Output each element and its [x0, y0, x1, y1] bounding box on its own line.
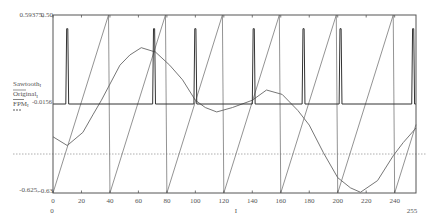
x-tick-label: 100: [190, 197, 201, 205]
x-tick-label: 240: [389, 197, 400, 205]
x-tick-labels: 020406080100120140160180200220240: [51, 197, 400, 205]
x-tick-label: 60: [135, 197, 143, 205]
fpm-trace: [53, 29, 416, 104]
x-variable-label: I: [235, 207, 238, 215]
fpm-chart: 0.59375, 0.50 -0.0156 -0.625, -0.63 Sawt…: [0, 0, 435, 217]
x-tick-label: 160: [276, 197, 287, 205]
x-tick-label: 80: [163, 197, 171, 205]
x-tick-label: 180: [304, 197, 315, 205]
plot-traces: [53, 15, 416, 193]
x-tick-label: 40: [106, 197, 114, 205]
x-tick-label: 200: [332, 197, 343, 205]
x-tick-label: 220: [361, 197, 372, 205]
y-marker-max-label: 0.50: [41, 11, 54, 19]
y-marker-min-label: -0.63: [38, 187, 53, 195]
x-tick-label: 120: [219, 197, 230, 205]
x-min-label: 0: [50, 207, 54, 215]
x-tick-label: 0: [51, 197, 55, 205]
legend-item-sawtooth: SawtoothI: [13, 80, 41, 89]
original-trace: [53, 48, 416, 193]
x-tick-label: 140: [247, 197, 258, 205]
y-marker-mid-label: -0.0156: [32, 98, 53, 105]
y-outer-min-label: -0.625,: [19, 186, 39, 194]
legend-item-original: OriginalI: [13, 90, 38, 99]
legend-item-fpm: FPMI: [13, 100, 29, 109]
x-tick-label: 20: [78, 197, 86, 205]
legend: SawtoothI OriginalI FPMI: [13, 80, 41, 111]
x-max-label: 255: [407, 207, 418, 215]
